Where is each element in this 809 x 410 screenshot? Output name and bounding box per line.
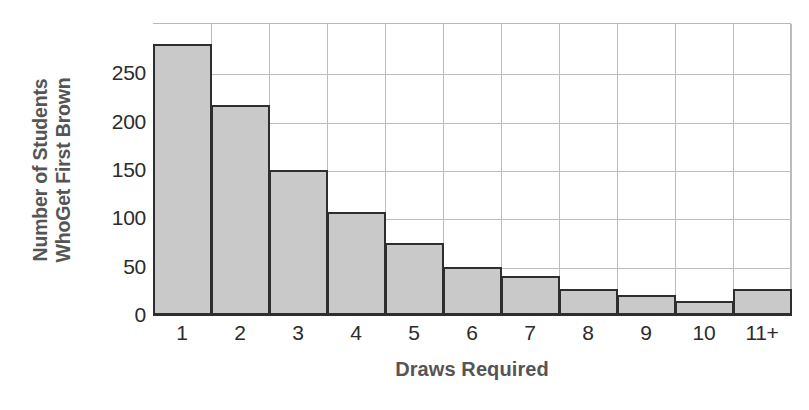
x-tick-label-6: 6	[443, 320, 501, 345]
x-tick-label-4: 4	[327, 320, 385, 345]
x-tick-label-10: 10	[675, 320, 733, 345]
x-tick-label-9: 9	[617, 320, 675, 345]
y-axis-title: Number of Students WhoGet First Brown	[0, 0, 104, 340]
bar-11+	[733, 289, 792, 315]
x-tick-label-2: 2	[211, 320, 269, 345]
x-axis-tick-labels: 1234567891011+	[153, 320, 791, 352]
y-tick-label-200: 200	[96, 111, 146, 132]
bar-1	[153, 44, 212, 315]
bar-3	[269, 170, 328, 315]
bar-2	[211, 105, 270, 315]
bar-7	[501, 276, 560, 315]
x-tick-label-8: 8	[559, 320, 617, 345]
bar-4	[327, 212, 386, 315]
x-axis-title: Draws Required	[153, 358, 791, 381]
gridline-x-11	[791, 24, 792, 315]
bar-10	[675, 301, 734, 316]
bar-5	[385, 243, 444, 315]
x-tick-label-3: 3	[269, 320, 327, 345]
plot-area	[153, 23, 791, 315]
y-tick-label-50: 50	[96, 256, 146, 277]
bar-series	[153, 24, 790, 315]
y-tick-label-250: 250	[96, 62, 146, 83]
bar-9	[617, 295, 676, 315]
bar-6	[443, 267, 502, 315]
x-axis-line	[153, 314, 792, 316]
y-axis-tick-labels: 050100150200250	[96, 0, 146, 410]
x-tick-label-5: 5	[385, 320, 443, 345]
y-axis-title-line-1: Number of Students	[29, 78, 52, 263]
bar-8	[559, 289, 618, 315]
y-tick-label-150: 150	[96, 159, 146, 180]
y-axis-title-line-2: WhoGet First Brown	[52, 78, 75, 263]
x-tick-label-11+: 11+	[733, 320, 791, 345]
y-tick-label-100: 100	[96, 207, 146, 228]
histogram-figure: Number of Students WhoGet First Brown 05…	[0, 0, 809, 410]
x-tick-label-7: 7	[501, 320, 559, 345]
x-tick-label-1: 1	[153, 320, 211, 345]
y-tick-label-0: 0	[96, 304, 146, 325]
